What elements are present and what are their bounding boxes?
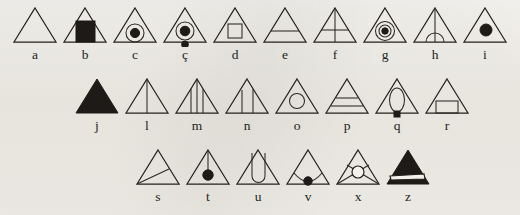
triangle-solid-icon (73, 74, 121, 118)
glyph-cell-r: r (422, 74, 472, 133)
triangle-circle-dot-icon (111, 3, 159, 47)
triangle-three-verticals-icon (173, 74, 221, 118)
glyph-label: d (232, 48, 239, 62)
glyph-label: n (244, 119, 251, 133)
glyph-cell-b: b (60, 3, 110, 62)
triangle-open-square-icon (211, 3, 259, 47)
triangle-apex-line-dot-icon (184, 145, 232, 189)
glyph-label: r (445, 119, 450, 133)
glyph-label: e (282, 48, 288, 62)
triangle-two-bands-icon (323, 74, 371, 118)
glyph-cell-c: c (110, 3, 160, 62)
triangle-diagonal-icon (134, 145, 182, 189)
triangle-rectangle-icon (423, 74, 471, 118)
triangle-circle-dot-cedilla-icon (161, 3, 209, 47)
plain-triangle-icon (11, 3, 59, 47)
glyph-label: s (155, 190, 160, 204)
glyph-label: g (382, 48, 389, 62)
glyph-cell-x: x (333, 145, 383, 204)
glyph-label: v (305, 190, 312, 204)
glyph-row-1: a b c ç (0, 3, 520, 62)
glyph-label: o (294, 119, 301, 133)
glyph-label: j (95, 119, 99, 133)
glyph-cell-a: a (10, 3, 60, 62)
glyph-cell-p: p (322, 74, 372, 133)
glyph-row-3: s t u v (0, 145, 520, 204)
glyph-cell-h: h (410, 3, 460, 62)
glyph-cell-e: e (260, 3, 310, 62)
glyph-label: f (333, 48, 338, 62)
triangle-filled-square-icon (61, 3, 109, 47)
glyph-label: l (145, 119, 149, 133)
glyph-label: t (206, 190, 210, 204)
triangle-solid-wedge-icon (384, 145, 432, 189)
triangle-arc-dot-icon (284, 145, 332, 189)
triangle-one-band-icon (261, 3, 309, 47)
triangle-u-shape-icon (234, 145, 282, 189)
glyph-label: b (82, 48, 89, 62)
glyph-label: p (344, 119, 351, 133)
glyph-label: i (483, 48, 487, 62)
glyph-cell-f: f (310, 3, 360, 62)
glyph-cell-q: q (372, 74, 422, 133)
triangle-dot-icon (461, 3, 509, 47)
glyph-cell-j: j (72, 74, 122, 133)
glyph-cell-o: o (272, 74, 322, 133)
glyph-cell-u: u (233, 145, 283, 204)
glyph-label: q (394, 119, 401, 133)
glyph-label: c (132, 48, 138, 62)
triangle-crossed-circle-icon (334, 145, 382, 189)
glyph-cell-d: d (210, 3, 260, 62)
triangle-one-vertical-icon (123, 74, 171, 118)
triangle-oval-stem-icon (373, 74, 421, 118)
glyph-cell-i: i (460, 3, 510, 62)
glyph-cell-n: n (222, 74, 272, 133)
glyph-cell-g: g (360, 3, 410, 62)
triangle-arch-icon (411, 3, 459, 47)
glyph-row-2: j l m n (0, 74, 520, 133)
glyph-cell-l: l (122, 74, 172, 133)
glyph-label: x (355, 190, 362, 204)
glyph-label: m (192, 119, 203, 133)
triangle-cross-icon (311, 3, 359, 47)
glyph-label: h (432, 48, 439, 62)
triangle-double-circle-dot-icon (361, 3, 409, 47)
glyph-cell-c-cedilla: ç (160, 3, 210, 62)
glyph-cell-v: v (283, 145, 333, 204)
triangle-two-verticals-icon (223, 74, 271, 118)
glyph-label: ç (182, 48, 188, 62)
glyph-cell-s: s (133, 145, 183, 204)
glyph-cell-m: m (172, 74, 222, 133)
glyph-label: a (32, 48, 38, 62)
glyph-label: z (405, 190, 411, 204)
glyph-label: u (255, 190, 262, 204)
glyph-cell-z: z (383, 145, 433, 204)
glyph-cell-t: t (183, 145, 233, 204)
triangle-circle-icon (273, 74, 321, 118)
